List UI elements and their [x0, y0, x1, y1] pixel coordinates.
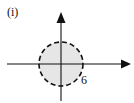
y-axis-arrow-icon	[57, 12, 66, 23]
diagram-figure: (i) 6	[0, 0, 134, 103]
radius-label: 6	[81, 73, 87, 87]
figure-label: (i)	[7, 5, 18, 19]
x-axis-arrow-icon	[121, 60, 131, 69]
